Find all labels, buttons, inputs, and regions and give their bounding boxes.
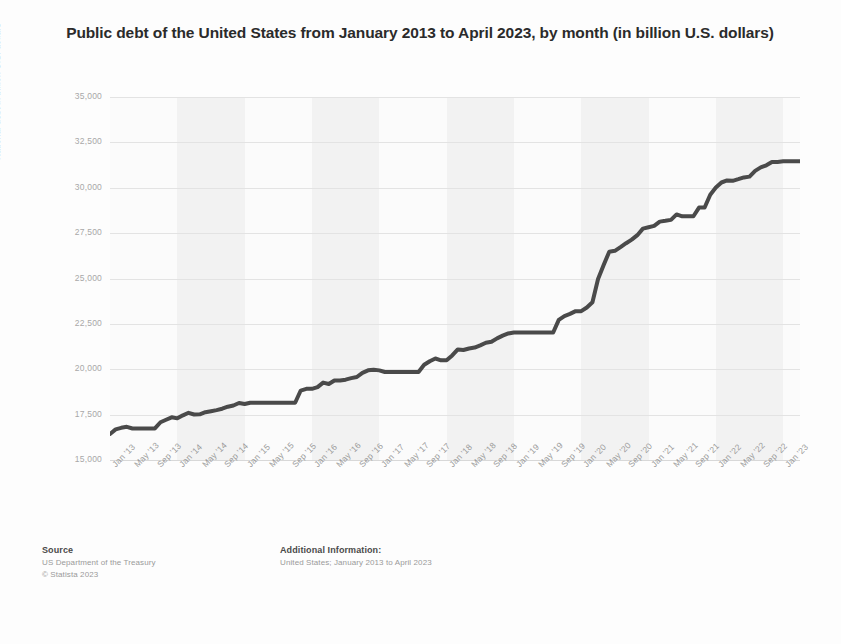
plot-area [110, 97, 800, 460]
y-axis-tick-label: 30,000 [46, 182, 102, 192]
y-axis-tick-label: 20,000 [46, 363, 102, 373]
source-heading: Source [42, 545, 156, 555]
source-line-2: © Statista 2023 [42, 570, 156, 579]
y-axis-tick-label: 32,500 [46, 136, 102, 146]
source-block: Source US Department of the Treasury © S… [42, 545, 156, 579]
y-axis-tick-label: 25,000 [46, 273, 102, 283]
y-axis-tick-label: 17,500 [46, 409, 102, 419]
y-axis-title: National debt in billion U.S. dollars [0, 23, 2, 160]
chart-title: Public debt of the United States from Ja… [60, 22, 780, 44]
y-axis-tick-label: 22,500 [46, 318, 102, 328]
source-line-1: US Department of the Treasury [42, 558, 156, 567]
y-axis-tick-label: 35,000 [46, 91, 102, 101]
additional-info-block: Additional Information: United States; J… [280, 545, 432, 567]
y-axis-tick-label: 27,500 [46, 227, 102, 237]
debt-line-series [110, 97, 800, 460]
additional-info-line-1: United States; January 2013 to April 202… [280, 558, 432, 567]
additional-info-heading: Additional Information: [280, 545, 432, 555]
x-axis-ticks: Jan '13May '13Sep '13Jan '14May '14Sep '… [110, 462, 800, 532]
y-axis-ticks: 35,00032,50030,00027,50025,00022,50020,0… [42, 97, 102, 460]
y-axis-tick-label: 15,000 [46, 454, 102, 464]
chart-card: Public debt of the United States from Ja… [0, 0, 841, 644]
